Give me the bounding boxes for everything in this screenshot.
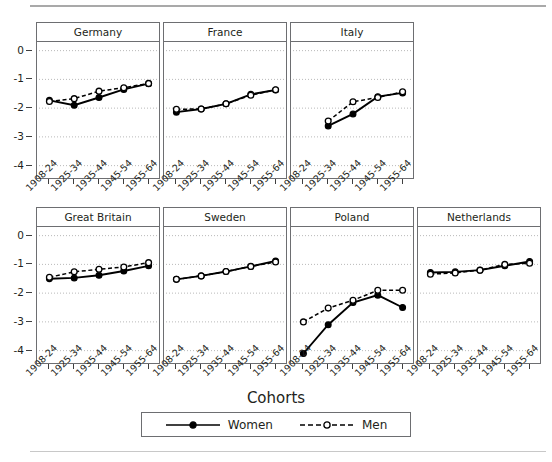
plot-area <box>417 226 541 364</box>
bottom-divider <box>30 451 546 452</box>
plot-area <box>163 41 287 179</box>
x-tick-mark <box>402 179 403 184</box>
x-axis: 1908-241925-341935-441945-541955-64 <box>417 364 549 406</box>
y-axis-row-2: 0-1-2-3-4 <box>0 226 32 364</box>
panel-italy: Italy <box>290 22 414 179</box>
y-tick-label: -2 <box>14 287 24 297</box>
x-tick-mark <box>148 179 149 184</box>
y-tick-label: -1 <box>14 73 24 83</box>
y-tick-mark <box>26 263 32 264</box>
plot-area <box>163 226 287 364</box>
legend-entry-women: Women <box>165 418 273 432</box>
legend-entry-men: Men <box>299 418 387 432</box>
y-tick-mark <box>26 235 32 236</box>
panel-title: Germany <box>36 22 160 42</box>
legend-swatch-men-icon <box>299 419 355 431</box>
y-tick-label: 0 <box>17 45 24 55</box>
y-axis-row-1: 0-1-2-3-4 <box>0 41 32 179</box>
y-tick-mark <box>26 107 32 108</box>
panel-title: France <box>163 22 287 42</box>
y-tick-mark <box>26 50 32 51</box>
y-tick-label: -4 <box>14 345 24 355</box>
x-tick-mark <box>402 364 403 369</box>
legend: Women Men <box>141 412 411 437</box>
y-tick-mark <box>26 292 32 293</box>
plot-area <box>290 41 414 179</box>
panel-title: Italy <box>290 22 414 42</box>
y-tick-label: -2 <box>14 102 24 112</box>
panel-title: Netherlands <box>417 207 541 227</box>
y-tick-mark <box>26 350 32 351</box>
y-tick-mark <box>26 78 32 79</box>
x-axis: 1908-241925-341935-441945-541955-64 <box>163 179 295 221</box>
legend-label-men: Men <box>362 418 387 432</box>
y-tick-label: -4 <box>14 160 24 170</box>
x-axis: 1908-241925-341935-441945-541955-64 <box>290 364 422 406</box>
x-axis: 1908-241925-341935-441945-541955-64 <box>163 364 295 406</box>
panel-sweden: Sweden <box>163 207 287 364</box>
x-axis: 1908-241925-341935-441945-541955-64 <box>290 179 422 221</box>
y-tick-label: 0 <box>17 230 24 240</box>
y-tick-mark <box>26 136 32 137</box>
panel-france: France <box>163 22 287 179</box>
plot-area <box>36 41 160 179</box>
plot-area <box>290 226 414 364</box>
x-axis: 1908-241925-341935-441945-541955-64 <box>36 364 168 406</box>
top-divider <box>30 5 546 7</box>
x-tick-mark <box>275 364 276 369</box>
plot-area <box>36 226 160 364</box>
y-tick-label: -3 <box>14 131 24 141</box>
panel-netherlands: Netherlands <box>417 207 541 364</box>
panel-poland: Poland <box>290 207 414 364</box>
legend-label-women: Women <box>228 418 273 432</box>
x-tick-mark <box>275 179 276 184</box>
x-tick-mark <box>529 364 530 369</box>
y-tick-mark <box>26 321 32 322</box>
legend-swatch-women-icon <box>165 419 221 431</box>
x-axis: 1908-241925-341935-441945-541955-64 <box>36 179 168 221</box>
y-tick-label: -1 <box>14 258 24 268</box>
y-tick-label: -3 <box>14 316 24 326</box>
panel-great-britain: Great Britain <box>36 207 160 364</box>
panel-germany: Germany <box>36 22 160 179</box>
chart-figure: 0-1-2-3-4 GermanyFranceItaly 0-1-2-3-4 G… <box>0 0 552 462</box>
x-tick-mark <box>148 364 149 369</box>
y-tick-mark <box>26 165 32 166</box>
